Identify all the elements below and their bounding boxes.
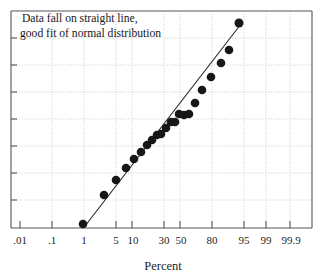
x-tick-label-10: 99.9 [281,234,301,246]
annotation-line-1: Data fall on straight line, [22,12,138,25]
plot-svg: Data fall on straight line, good fit of … [0,0,318,278]
data-point [79,220,88,229]
x-axis-title: Percent [144,259,182,273]
x-tick-label-0: .01 [13,234,27,246]
data-point [185,110,194,119]
x-tick-label-9: 99 [261,234,273,246]
data-point [112,176,121,185]
data-point [207,73,216,82]
data-point [171,118,180,127]
x-tick-label-3: 5 [113,234,119,246]
x-tick-label-1: .1 [48,234,56,246]
plot-background [11,11,312,228]
x-tick-labels: .01 .1 1 5 10 30 50 80 95 99 99.9 [13,234,301,246]
normal-probability-plot-figure: Data fall on straight line, good fit of … [0,0,318,278]
annotation-line-2: good fit of normal distribution [20,27,161,40]
x-tick-label-5: 30 [159,234,171,246]
data-point [191,99,200,108]
data-point [137,148,146,157]
data-point [198,86,207,95]
data-point [225,46,234,55]
x-tick-label-2: 1 [81,234,87,246]
data-point [235,19,244,28]
x-tick-label-8: 95 [239,234,251,246]
data-point [122,164,131,173]
data-point [100,191,109,200]
data-point [130,155,139,164]
x-tick-label-7: 80 [207,234,219,246]
data-point [217,59,226,68]
x-tick-label-4: 10 [128,234,140,246]
x-tick-label-6: 50 [176,234,188,246]
